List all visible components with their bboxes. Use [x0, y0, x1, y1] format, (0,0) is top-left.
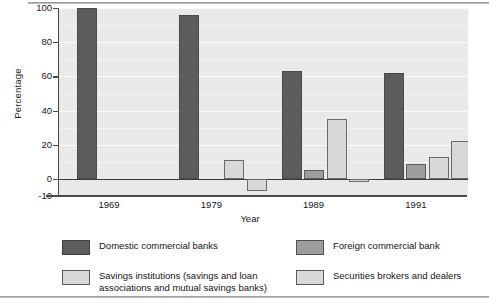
gridline-minor [59, 59, 468, 60]
bar-1991-series0 [384, 73, 404, 179]
gridline-minor [59, 25, 468, 26]
legend-label-0: Domestic commercial banks [99, 240, 309, 252]
gridline-minor [59, 94, 468, 95]
bar-1979-series0 [179, 15, 199, 179]
y-tick-mark [53, 111, 58, 112]
legend-swatch-2 [62, 270, 90, 285]
bar-1991-series3 [451, 141, 468, 179]
gridline [59, 42, 468, 43]
bar-1989-series1 [304, 170, 324, 179]
bar-chart-figure: Percentage -10020406080100 1969197919891… [0, 0, 489, 306]
y-tick-mark [53, 8, 58, 9]
x-tick-label-1969: 1969 [74, 199, 144, 210]
bar-1989-series0 [282, 71, 302, 179]
x-axis-line [46, 195, 467, 197]
legend-label-3: Securities brokers and dealers [333, 270, 489, 282]
y-tick-mark [53, 42, 58, 43]
gridline-minor [59, 128, 468, 129]
chart-legend: Domestic commercial banksForeign commerc… [62, 240, 482, 296]
bar-1979-series2 [224, 160, 244, 179]
x-axis-title: Year [210, 213, 290, 224]
y-tick-mark [53, 145, 58, 146]
y-tick-label: 80 [18, 36, 52, 47]
y-axis-title: Percentage [12, 54, 23, 134]
x-tick-label-1989: 1989 [279, 199, 349, 210]
bar-1991-series2 [429, 157, 449, 179]
x-tick-label-1991: 1991 [381, 199, 451, 210]
bar-1979-series3 [247, 179, 267, 191]
bar-1989-series2 [327, 119, 347, 179]
legend-swatch-1 [296, 240, 324, 255]
figure-bottom-rule [0, 296, 489, 298]
y-tick-label: 100 [18, 2, 52, 13]
legend-label-1: Foreign commercial bank [333, 240, 489, 252]
y-tick-label: 40 [18, 105, 52, 116]
gridline [59, 76, 468, 77]
plot-inner [59, 8, 468, 196]
gridline [59, 8, 468, 9]
y-tick-label: 60 [18, 70, 52, 81]
y-tick-mark [53, 76, 58, 77]
x-tick-label-1979: 1979 [176, 199, 246, 210]
gridline [59, 111, 468, 112]
bar-1991-series1 [406, 164, 426, 179]
bar-1969-series0 [77, 8, 97, 179]
gridline [59, 145, 468, 146]
y-tick-mark [53, 179, 58, 180]
y-tick-label: 0 [18, 173, 52, 184]
plot-area [58, 8, 468, 196]
legend-swatch-0 [62, 240, 90, 255]
bar-1989-series3 [349, 179, 369, 182]
legend-label-2: Savings institutions (savings and loan a… [99, 270, 309, 293]
figure-top-rule [28, 2, 489, 4]
legend-swatch-3 [296, 270, 324, 285]
y-tick-label: 20 [18, 139, 52, 150]
